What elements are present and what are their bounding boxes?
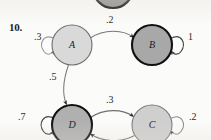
- node-label-a: A: [62, 39, 82, 50]
- edge-label-d-to-c: .3: [106, 94, 114, 105]
- partial-node-above: [93, 0, 133, 8]
- node-label-b: B: [142, 39, 162, 50]
- edge-a-to-b: [91, 31, 134, 38]
- edge-a-to-d: [64, 65, 69, 105]
- edge-label-a-to-d: .5: [49, 71, 57, 82]
- node-label-c: C: [142, 119, 162, 130]
- edge-label-d-self: .7: [18, 111, 26, 122]
- edge-label-b-self: 1: [188, 31, 193, 42]
- edge-label-c-self: .2: [189, 111, 197, 122]
- edge-d-to-c: [91, 111, 134, 118]
- node-label-d: D: [62, 119, 82, 130]
- edge-label-a-self: .3: [34, 31, 42, 42]
- edge-label-a-to-b: .2: [106, 14, 114, 25]
- problem-number: 10.: [9, 21, 22, 33]
- edge-c-to-d: [91, 134, 135, 140]
